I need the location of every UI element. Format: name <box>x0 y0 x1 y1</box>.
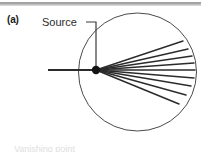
bottom-caption-partial: Vanishing point <box>14 144 75 152</box>
scattered-ray <box>96 56 192 70</box>
scattered-ray <box>96 41 183 70</box>
source-point-marker <box>92 66 100 74</box>
figure-panel: (a) Source Vanishing point <box>0 0 208 152</box>
scattered-ray-fan <box>96 41 195 104</box>
source-leader-line <box>86 22 96 68</box>
scattering-diagram <box>0 0 208 152</box>
